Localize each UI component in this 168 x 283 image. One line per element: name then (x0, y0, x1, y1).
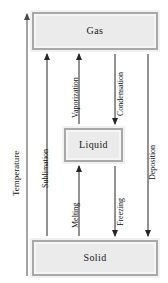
state-label-liquid: Liquid (79, 140, 108, 150)
label-deposition: Deposition (149, 145, 157, 180)
phase-change-diagram: Temperature Sublimation Deposition Vapor… (0, 0, 168, 283)
label-condensation: Condensation (117, 72, 125, 116)
state-box-gas: Gas (30, 10, 160, 52)
label-sublimation: Sublimation (42, 149, 50, 188)
state-box-gas-inner: Gas (32, 12, 158, 50)
temperature-axis-arrowhead (24, 13, 30, 20)
state-box-solid-inner: Solid (32, 240, 158, 276)
label-melting: Melting (72, 203, 80, 228)
state-box-liquid-inner: Liquid (64, 128, 123, 162)
state-label-solid: Solid (83, 253, 106, 263)
temperature-axis-label: Temperature (12, 151, 21, 196)
label-vaporization: Vaporization (72, 77, 80, 118)
label-freezing: Freezing (117, 198, 125, 226)
state-box-gas-face: Gas (34, 14, 156, 48)
arrow-head-down (145, 230, 151, 237)
state-box-solid-face: Solid (34, 242, 156, 274)
arrow-shaft (46, 54, 47, 236)
arrow-shaft (114, 166, 115, 236)
arrow-head-down (112, 230, 118, 237)
state-box-liquid: Liquid (62, 126, 125, 164)
state-box-liquid-face: Liquid (66, 130, 121, 160)
state-box-solid: Solid (30, 238, 160, 278)
arrow-head-up (76, 165, 82, 172)
arrow-head-down (112, 118, 118, 125)
arrow-sublimation (42, 54, 51, 236)
arrow-shaft (114, 54, 115, 124)
state-label-gas: Gas (87, 26, 104, 36)
temperature-axis-shaft (26, 14, 27, 276)
arrow-head-up (44, 53, 50, 60)
temperature-axis-arrow (22, 14, 31, 276)
arrow-head-up (76, 53, 82, 60)
